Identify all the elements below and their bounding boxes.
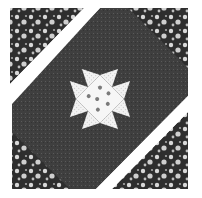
quilt-block-image: [0, 0, 202, 198]
